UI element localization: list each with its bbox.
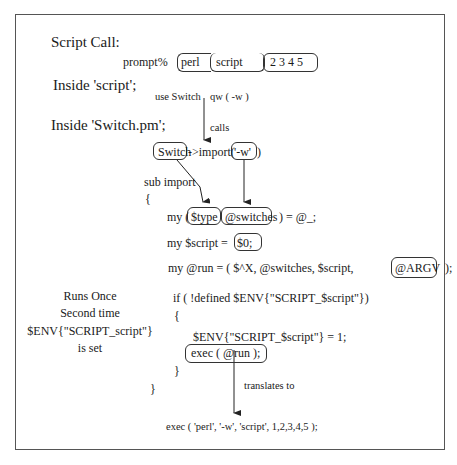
script-call-heading: Script Call: xyxy=(51,35,120,50)
exec-result-line: exec ( 'perl', '-w', 'script', 1,2,3,4,5… xyxy=(166,422,318,433)
prompt-label: prompt% xyxy=(123,56,168,68)
token-args: 2 3 4 5 xyxy=(270,56,303,68)
line1-prefix: my ( xyxy=(167,211,189,223)
side-note-line-1: Runs Once xyxy=(20,290,160,302)
switch-class: Switch xyxy=(158,146,191,158)
if-close-brace: } xyxy=(174,365,180,377)
token-script: script xyxy=(216,56,243,68)
if-open-brace: { xyxy=(174,310,180,322)
argv-var: @ARGV xyxy=(395,262,440,274)
type-var: $type xyxy=(191,211,218,223)
line3-prefix: my @run = ( $^X, @switches, $script, xyxy=(168,262,353,274)
token-perl: perl xyxy=(181,56,200,68)
line2-prefix: my $script = xyxy=(167,237,228,249)
calls-label: calls xyxy=(210,123,229,134)
side-note-line-2: Second time xyxy=(20,307,160,319)
sub-close-brace: } xyxy=(150,383,156,395)
line1-suffix: ) = @_; xyxy=(279,211,316,223)
sub-import-header: sub import xyxy=(144,176,196,188)
sub-open-brace: { xyxy=(145,193,151,205)
dollar-zero: $0; xyxy=(237,237,252,249)
line3-suffix: ); xyxy=(445,262,452,274)
translates-to-label: translates to xyxy=(244,381,294,392)
if-line: if ( !defined $ENV{"SCRIPT_$script"}) xyxy=(173,292,369,304)
exec-run: exec ( @run ); xyxy=(191,347,260,359)
side-note-line-4: is set xyxy=(20,342,160,354)
switches-var: @switches xyxy=(225,211,277,223)
inside-switch-pm-heading: Inside 'Switch.pm'; xyxy=(51,118,166,133)
qw-w-text: qw ( -w ) xyxy=(210,92,249,103)
switch-arg: '-w' xyxy=(234,146,251,158)
import-method: ->import( xyxy=(188,146,235,158)
inside-script-heading: Inside 'script'; xyxy=(53,78,136,93)
env-set-line: $ENV{"SCRIPT_$script"} = 1; xyxy=(193,331,346,343)
use-switch-text: use Switch xyxy=(155,92,201,103)
import-close-paren: ) xyxy=(257,146,261,158)
side-note-line-3: $ENV{"SCRIPT_script"} xyxy=(20,325,160,337)
